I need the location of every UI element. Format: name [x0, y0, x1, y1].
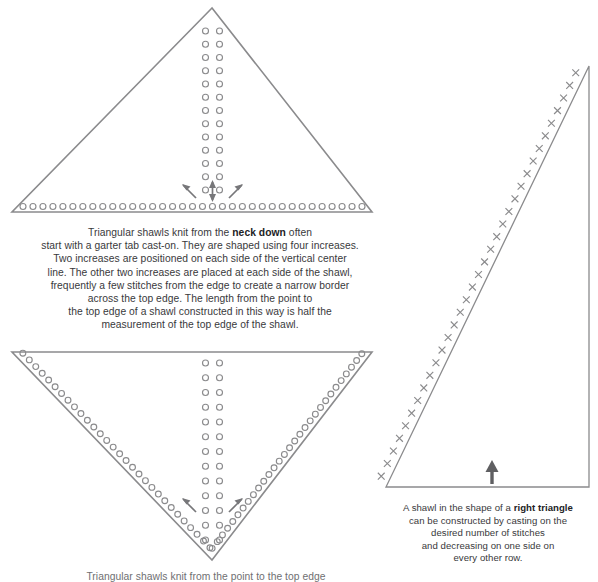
stitch-circle — [203, 174, 209, 180]
figure-neck-down-triangle — [12, 8, 372, 212]
stitch-circle — [309, 204, 315, 210]
stitch-circle — [203, 419, 209, 425]
stitch-circle — [209, 204, 215, 210]
stitch-x — [524, 170, 531, 177]
stitch-circle — [78, 411, 84, 417]
stitch-circle — [217, 419, 223, 425]
stitch-circle — [354, 358, 360, 364]
stitch-x — [512, 195, 519, 202]
stitch-circle — [230, 519, 236, 525]
stitch-circle — [72, 404, 78, 410]
stitch-x — [530, 158, 537, 165]
stitch-x — [457, 309, 464, 316]
stitch-circle — [217, 508, 223, 514]
stitch-circle — [39, 370, 45, 376]
stitch-x — [487, 246, 494, 253]
stitch-x — [408, 410, 415, 417]
stitch-circle — [20, 350, 26, 356]
stitch-circle — [269, 204, 275, 210]
stitch-circle — [170, 204, 176, 210]
stitch-circle — [333, 384, 339, 390]
stitch-x — [475, 271, 482, 278]
stitch-circle — [297, 431, 303, 437]
stitch-circle — [299, 204, 305, 210]
decrease-x-marks — [378, 69, 579, 479]
stitch-circle — [217, 28, 223, 34]
stitch-circle — [217, 522, 223, 528]
stitch-x — [396, 435, 403, 442]
stitch-circle — [312, 411, 318, 417]
caption-point-up: Triangular shawls knit from the point to… — [30, 570, 382, 582]
stitch-circle — [287, 445, 293, 451]
stitch-circle — [203, 522, 209, 528]
stitch-x — [566, 82, 573, 89]
right-edge-stitches — [209, 351, 364, 551]
stitch-x — [451, 322, 458, 329]
stitch-circle — [130, 464, 136, 470]
stitch-circle — [97, 431, 103, 437]
stitch-circle — [104, 438, 110, 444]
stitch-circle — [235, 512, 241, 518]
stitch-circle — [110, 444, 116, 450]
stitch-circle — [190, 204, 196, 210]
stitch-circle — [20, 204, 26, 210]
stitch-x — [542, 132, 549, 139]
stitch-circle — [203, 68, 209, 74]
stitch-circle — [120, 204, 126, 210]
stitch-circle — [328, 391, 334, 397]
stitch-circle — [130, 204, 136, 210]
stitch-circle — [203, 187, 209, 193]
stitch-circle — [217, 174, 223, 180]
stitch-circle — [225, 525, 231, 531]
top-edge-stitch-row — [20, 204, 365, 210]
stitch-circle — [203, 121, 209, 127]
stitch-circle — [136, 471, 142, 477]
stitch-circle — [203, 134, 209, 140]
stitch-circle — [217, 81, 223, 87]
stitch-circle — [266, 472, 272, 478]
stitch-x — [414, 397, 421, 404]
cast-on-direction-arrow — [486, 460, 499, 484]
stitch-circle — [217, 478, 223, 484]
stitch-circle — [59, 391, 65, 397]
stitch-circle — [203, 434, 209, 440]
center-increase-column — [203, 360, 223, 543]
stitch-circle — [217, 41, 223, 47]
caption-right-triangle: A shawl in the shape of a right triangle… — [381, 502, 595, 565]
stitch-circle — [307, 418, 313, 424]
stitch-circle — [203, 161, 209, 167]
stitch-circle — [217, 404, 223, 410]
stitch-circle — [240, 505, 246, 511]
stitch-circle — [217, 187, 223, 193]
stitch-circle — [339, 204, 345, 210]
stitch-x — [493, 233, 500, 240]
stitch-circle — [251, 492, 257, 498]
stitch-circle — [217, 463, 223, 469]
stitch-circle — [245, 498, 251, 504]
stitch-circle — [318, 405, 324, 411]
stitch-circle — [80, 204, 86, 210]
stitch-circle — [319, 204, 325, 210]
figure-right-triangle — [378, 66, 589, 487]
stitch-circle — [203, 94, 209, 100]
stitch-circle — [203, 375, 209, 381]
stitch-circle — [203, 81, 209, 87]
stitch-circle — [149, 484, 155, 490]
stitch-circle — [203, 147, 209, 153]
stitch-x — [402, 422, 409, 429]
stitch-circle — [30, 204, 36, 210]
stitch-circle — [289, 204, 295, 210]
stitch-circle — [52, 384, 58, 390]
stitch-circle — [65, 397, 71, 403]
stitch-circle — [217, 108, 223, 114]
stitch-circle — [181, 518, 187, 524]
stitch-circle — [217, 121, 223, 127]
stitch-circle — [220, 532, 226, 538]
stitch-circle — [338, 378, 344, 384]
stitch-x — [499, 221, 506, 228]
stitch-circle — [217, 434, 223, 440]
stitch-circle — [217, 68, 223, 74]
stitch-x — [445, 334, 452, 341]
stitch-circle — [143, 478, 149, 484]
stitch-circle — [194, 531, 200, 537]
